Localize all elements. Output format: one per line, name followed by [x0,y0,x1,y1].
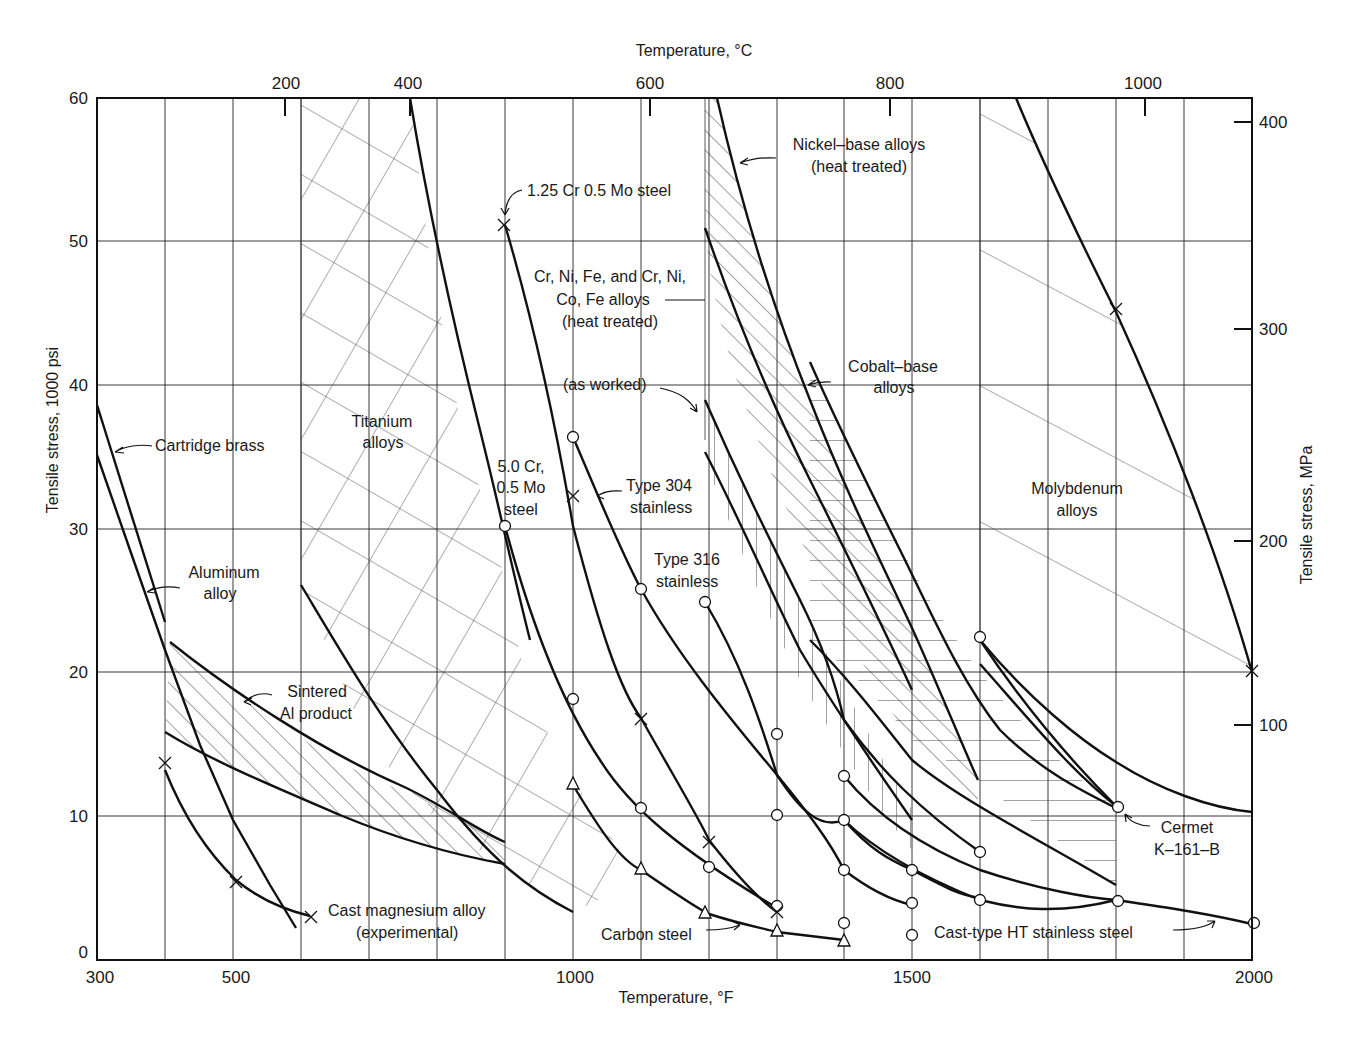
svg-text:800: 800 [876,74,904,93]
label-magnesium-2: (experimental) [356,924,458,941]
label-aluminum-1: Aluminum [188,564,259,581]
svg-text:10: 10 [69,807,88,826]
label-cr125: 1.25 Cr 0.5 Mo steel [527,182,671,199]
label-nickel-2: (heat treated) [811,158,907,175]
label-t316-1: Type 316 [654,551,720,568]
svg-text:1000: 1000 [556,968,594,987]
label-cermet-2: K–161–B [1154,841,1220,858]
label-magnesium-1: Cast magnesium alloy [328,902,485,919]
label-cr5-2: 0.5 Mo [497,479,546,496]
y-axis-labels: 60 50 40 30 20 10 0 [69,89,88,962]
svg-text:200: 200 [272,74,300,93]
label-sintered-2: Al product [280,705,353,722]
label-t304-1: Type 304 [626,477,692,494]
tensile-stress-chart: 60 50 40 30 20 10 0 300 500 1000 1500 20… [0,0,1351,1043]
svg-text:400: 400 [394,74,422,93]
svg-text:50: 50 [69,232,88,251]
label-titanium-2: alloys [363,434,404,451]
label-titanium-1: Titanium [352,413,413,430]
label-cobalt-2: alloys [874,379,915,396]
label-moly-2: alloys [1057,502,1098,519]
label-aluminum-2: alloy [204,585,237,602]
svg-text:40: 40 [69,376,88,395]
label-crni-2: Co, Fe alloys [556,291,649,308]
svg-text:1500: 1500 [893,968,931,987]
svg-text:0: 0 [79,943,88,962]
label-cartridge-brass: Cartridge brass [155,437,264,454]
label-cermet-1: Cermet [1161,819,1214,836]
label-cobalt-1: Cobalt–base [848,358,938,375]
x-axis-title: Temperature, °F [619,989,734,1006]
label-sintered-1: Sintered [287,683,347,700]
svg-text:400: 400 [1259,113,1287,132]
svg-text:20: 20 [69,663,88,682]
svg-text:60: 60 [69,89,88,108]
label-cast-ht: Cast-type HT stainless steel [934,924,1133,941]
label-t316-2: stainless [656,573,718,590]
svg-text:100: 100 [1259,716,1287,735]
y2-axis-labels: 400 300 200 100 [1259,113,1287,735]
svg-text:30: 30 [69,520,88,539]
svg-text:500: 500 [222,968,250,987]
svg-text:600: 600 [636,74,664,93]
y-axis-title: Tensile stress, 1000 psi [44,347,61,513]
label-carbon-steel: Carbon steel [601,926,692,943]
x2-axis-title: Temperature, °C [636,42,753,59]
y2-axis-title: Tensile stress, MPa [1298,446,1315,585]
label-crni-1: Cr, Ni, Fe, and Cr, Ni, [534,268,686,285]
svg-text:300: 300 [1259,320,1287,339]
label-nickel-1: Nickel–base alloys [793,136,926,153]
label-as-worked: (as worked) [563,376,647,393]
svg-text:300: 300 [86,968,114,987]
label-cr5-3: steel [504,501,538,518]
svg-text:2000: 2000 [1235,968,1273,987]
label-t304-2: stainless [630,499,692,516]
label-cr5-1: 5.0 Cr, [497,458,544,475]
svg-text:1000: 1000 [1124,74,1162,93]
label-moly-1: Molybdenum [1031,480,1123,497]
label-crni-3: (heat treated) [562,313,658,330]
x-axis-labels: 300 500 1000 1500 2000 [86,968,1273,987]
x2-axis-labels: 200 400 600 800 1000 [272,74,1162,93]
svg-text:200: 200 [1259,532,1287,551]
